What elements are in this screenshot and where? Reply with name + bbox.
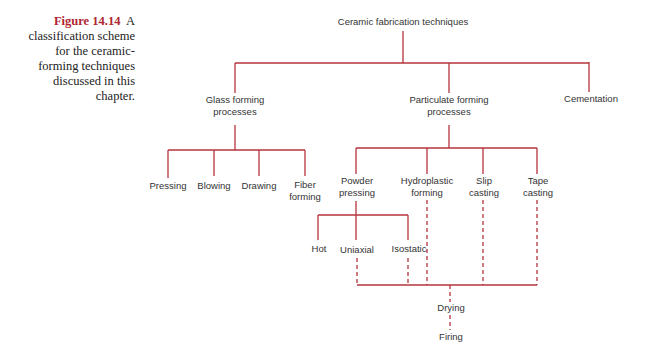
- node-uniaxial: Uniaxial: [340, 244, 374, 256]
- node-particulate-line2: processes: [409, 106, 488, 118]
- node-glass-line1: Glass forming: [206, 94, 265, 106]
- node-hydroplastic-forming: Hydroplastic forming: [401, 175, 453, 199]
- node-pressing: Pressing: [150, 180, 187, 192]
- node-blowing: Blowing: [197, 180, 230, 192]
- node-hot: Hot: [312, 243, 327, 255]
- node-fiber-forming: Fiber forming: [289, 179, 321, 203]
- node-drying: Drying: [437, 302, 464, 314]
- node-isostatic: Isostatic: [392, 243, 427, 255]
- node-tape-line2: casting: [523, 187, 553, 199]
- node-tape-casting: Tape casting: [523, 175, 553, 199]
- node-particulate-forming: Particulate forming processes: [409, 94, 488, 118]
- node-tape-line1: Tape: [523, 175, 553, 187]
- node-hydroplastic-line1: Hydroplastic: [401, 175, 453, 187]
- node-particulate-line1: Particulate forming: [409, 94, 488, 106]
- node-powder-line2: pressing: [339, 187, 375, 199]
- node-fiber-line1: Fiber: [289, 179, 321, 191]
- node-drawing: Drawing: [242, 180, 277, 192]
- node-glass-forming: Glass forming processes: [206, 94, 265, 118]
- node-slip-casting: Slip casting: [469, 175, 499, 199]
- node-slip-line2: casting: [469, 187, 499, 199]
- node-hydroplastic-line2: forming: [401, 187, 453, 199]
- node-glass-line2: processes: [206, 106, 265, 118]
- node-powder-line1: Powder: [339, 175, 375, 187]
- node-cementation: Cementation: [564, 93, 618, 105]
- node-firing: Firing: [439, 331, 463, 343]
- node-root: Ceramic fabrication techniques: [338, 16, 468, 28]
- node-fiber-line2: forming: [289, 191, 321, 203]
- node-powder-pressing: Powder pressing: [339, 175, 375, 199]
- node-slip-line1: Slip: [469, 175, 499, 187]
